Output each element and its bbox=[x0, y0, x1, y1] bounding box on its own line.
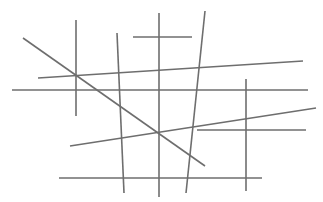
line-diagram bbox=[0, 0, 323, 202]
line-diagram-svg bbox=[0, 0, 323, 202]
diagram-background bbox=[0, 0, 323, 202]
